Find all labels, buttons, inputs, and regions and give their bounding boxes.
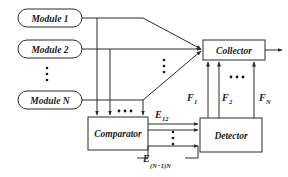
signal-label-e-last: E (N−1)N [142, 153, 171, 170]
module-1-label: Module 1 [30, 14, 68, 24]
signal-label-e-first: E 12 [154, 109, 169, 122]
signal-label-f-first: F 1 [186, 92, 197, 105]
signal-label-f-second: F 2 [221, 92, 233, 105]
collector-label: Collector [216, 46, 252, 56]
signal-f-second-base: F [221, 92, 229, 103]
module-2-label: Module 2 [30, 45, 68, 55]
block-diagram: Module 1 Module 2 Module N Collector Com… [0, 0, 288, 177]
modules-vertical-ellipsis-icon [46, 67, 49, 82]
comparator-inputs-horizontal-ellipsis-icon [118, 110, 133, 113]
diagram-canvas: Module 1 Module 2 Module N Collector Com… [0, 0, 288, 177]
e-signals-vertical-ellipsis-icon [172, 131, 175, 146]
signal-f-last-base: F [258, 92, 266, 103]
f-signals-horizontal-ellipsis-icon [230, 76, 245, 79]
signal-e-first-base: E [154, 109, 162, 120]
comparator-label: Comparator [94, 129, 142, 139]
signal-f-first-sub: 1 [194, 98, 197, 105]
signal-e-first-sub: 12 [162, 115, 169, 122]
signal-f-last-sub: N [265, 98, 271, 105]
wire-module1-to-collector [143, 18, 201, 49]
collector-inputs-vertical-ellipsis-icon [163, 59, 166, 74]
module-n-label: Module N [29, 96, 70, 106]
signal-f-second-sub: 2 [228, 98, 233, 105]
detector-label: Detector [213, 131, 248, 141]
signal-f-first-base: F [186, 92, 194, 103]
wire-e-last-leader-right [185, 146, 198, 158]
signal-e-last-sub: (N−1)N [150, 162, 171, 170]
signal-e-last-base: E [142, 153, 150, 164]
signal-label-f-last: F N [258, 92, 271, 105]
